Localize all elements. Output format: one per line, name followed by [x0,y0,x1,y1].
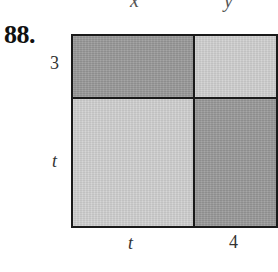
cell-top-right-3-by-4 [195,36,276,99]
cropped-variable-y: y [224,0,233,10]
area-model-diagram [71,34,278,228]
cell-bottom-right-t-by-4 [195,99,276,226]
cell-top-left-3-by-t [73,36,195,99]
cell-bottom-left-t-by-t [73,99,195,226]
left-label-top: 3 [50,54,59,72]
problem-number: 88. [4,22,35,48]
bottom-label-right: 4 [229,233,238,251]
left-label-bottom: t [52,152,57,170]
cropped-variable-x: x [130,0,139,10]
bottom-label-left: t [128,234,133,252]
